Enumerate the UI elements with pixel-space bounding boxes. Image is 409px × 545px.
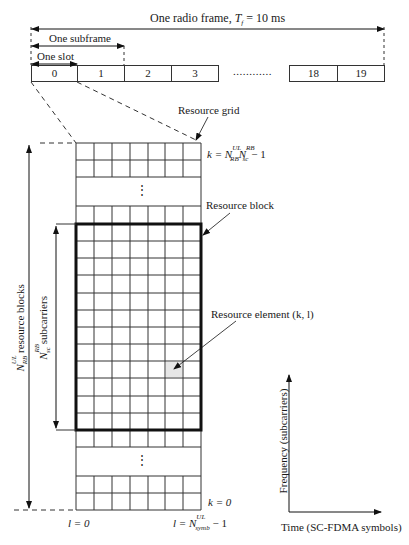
k-bottom-label: k = 0 <box>208 497 231 508</box>
subcarriers-axis-label: NRBsc subcarriers <box>36 273 52 383</box>
resource-grid-label: Resource grid <box>178 105 239 116</box>
k-top-sub1: RB <box>230 155 239 163</box>
inner-text: subcarriers <box>37 296 49 347</box>
k-top-sup1: UL <box>232 144 241 152</box>
outer-sym: N <box>14 364 26 371</box>
resource-element-label: Resource element (k, l) <box>211 309 314 320</box>
inner-sub: sc <box>44 347 52 353</box>
resource-block-label: Resource block <box>206 200 274 211</box>
l-right-sub: symb <box>195 524 209 532</box>
l-right-suffix: − 1 <box>210 517 227 529</box>
outer-sub: RB <box>21 356 29 365</box>
outer-text: resource blocks <box>14 284 26 355</box>
frequency-axis-label: Frequency (subcarriers) <box>277 376 289 506</box>
resource-blocks-axis-label: NULRB resource blocks <box>13 263 29 393</box>
l-right-label: l = NULsymb − 1 <box>173 517 227 532</box>
time-axis-label: Time (SC-FDMA symbols) <box>281 522 402 533</box>
vdots-top: ⋮ <box>136 184 148 196</box>
k-top-sup2: RB <box>246 144 255 152</box>
l-left-label: l = 0 <box>68 518 89 529</box>
inner-sup: RB <box>33 344 41 353</box>
vdots-bottom: ⋮ <box>136 454 148 466</box>
l-right-sup: UL <box>196 513 205 521</box>
diagram-lines <box>0 0 409 545</box>
k-top-label: k = NULRBNRBsc − 1 <box>207 148 266 163</box>
inner-sym: N <box>37 352 49 359</box>
l-right-prefix: l = N <box>173 517 196 529</box>
outer-sup: UL <box>10 355 18 364</box>
k-top-prefix: k = N <box>207 148 232 160</box>
